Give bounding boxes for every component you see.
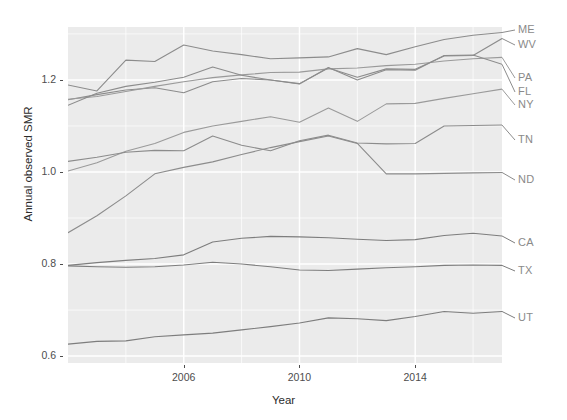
series-line-pa [68, 57, 502, 99]
series-label-me: ME [518, 23, 535, 35]
series-label-nd: ND [518, 173, 534, 185]
x-tick-label: 2006 [154, 371, 214, 383]
y-tick-mark [60, 172, 63, 173]
series-label-ny: NY [518, 98, 534, 110]
x-axis-title: Year [0, 394, 567, 406]
series-label-tn: TN [518, 133, 533, 145]
series-line-ut [68, 311, 502, 344]
x-tick-mark [299, 365, 300, 368]
x-tick-label: 2010 [269, 371, 329, 383]
series-label-ut: UT [518, 311, 533, 323]
plot-panel [68, 27, 502, 363]
y-tick-mark [60, 80, 63, 81]
y-tick-label: 0.8 [16, 257, 56, 269]
chart-root: 0.60.81.01.2 200620102014 MEWVPAFLNYTNND… [0, 0, 567, 420]
x-tick-mark [415, 365, 416, 368]
x-tick-mark [184, 365, 185, 368]
series-label-tx: TX [518, 264, 532, 276]
x-tick-label: 2014 [385, 371, 445, 383]
y-axis-title: Annual observed SMR [22, 74, 34, 254]
series-line-ca [68, 233, 502, 265]
y-tick-mark [60, 356, 63, 357]
series-label-fl: FL [518, 85, 531, 97]
y-tick-mark [60, 264, 63, 265]
plot-area [68, 27, 502, 363]
series-label-ca: CA [518, 236, 534, 248]
y-tick-label: 0.6 [16, 349, 56, 361]
series-line-tn [68, 125, 502, 161]
series-label-pa: PA [518, 71, 532, 83]
series-label-wv: WV [518, 38, 536, 50]
